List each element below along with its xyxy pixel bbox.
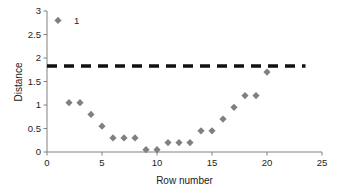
chart-canvas bbox=[0, 0, 341, 194]
x-tick-label: 5 bbox=[99, 158, 104, 168]
x-axis-title: Row number bbox=[156, 175, 213, 186]
x-tick-label: 25 bbox=[317, 158, 328, 168]
y-tick-label: 0 bbox=[36, 147, 41, 157]
x-tick-label: 10 bbox=[152, 158, 163, 168]
y-tick-label: 3 bbox=[36, 6, 41, 16]
y-tick-label: 1 bbox=[36, 100, 41, 110]
y-tick-label: 0.5 bbox=[28, 124, 41, 134]
x-tick-label: 15 bbox=[207, 158, 218, 168]
point-annotation: 1 bbox=[74, 15, 79, 26]
data-points bbox=[54, 17, 270, 153]
scatter-chart: 00.511.522.53 0510152025 1 Distance Row … bbox=[0, 0, 341, 194]
y-tick-label: 1.5 bbox=[28, 77, 41, 87]
axes bbox=[44, 11, 323, 156]
y-tick-label: 2 bbox=[36, 53, 41, 63]
y-tick-label: 2.5 bbox=[28, 30, 41, 40]
y-axis-title: Distance bbox=[13, 62, 24, 101]
x-tick-label: 20 bbox=[262, 158, 273, 168]
x-tick-label: 0 bbox=[44, 158, 49, 168]
